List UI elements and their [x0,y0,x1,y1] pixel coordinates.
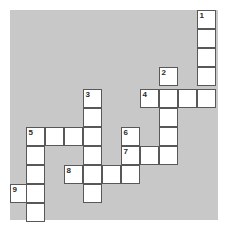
crossword-cell[interactable] [64,127,83,146]
cell-number-label: 5 [29,128,33,137]
crossword-cell-numbered[interactable]: 7 [121,146,140,165]
crossword-cell[interactable] [26,203,45,222]
cell-number-label: 2 [162,68,166,77]
crossword-cell[interactable] [102,165,121,184]
crossword-cell[interactable] [159,89,178,108]
crossword-cell-numbered[interactable]: 4 [140,89,159,108]
crossword-cell[interactable] [26,146,45,165]
crossword-cell[interactable] [45,127,64,146]
crossword-cell[interactable] [121,165,140,184]
cell-number-label: 9 [13,185,17,194]
crossword-cell-numbered[interactable]: 2 [159,67,178,86]
crossword-cell[interactable] [159,108,178,127]
crossword-cell-numbered[interactable]: 5 [26,127,45,146]
crossword-cell[interactable] [178,89,197,108]
cell-number-label: 7 [124,147,128,156]
crossword-cell-numbered[interactable]: 6 [121,127,140,146]
crossword-cell[interactable] [83,165,102,184]
crossword-cell[interactable] [197,89,216,108]
crossword-cell[interactable] [83,146,102,165]
crossword-cell[interactable] [159,127,178,146]
crossword-cell-numbered[interactable]: 1 [197,10,216,29]
cell-number-label: 3 [86,90,90,99]
crossword-cell[interactable] [197,67,216,86]
cell-number-label: 6 [124,128,128,137]
cell-number-label: 1 [200,11,204,20]
crossword-cell[interactable] [83,127,102,146]
crossword-cell[interactable] [197,48,216,67]
crossword-cell[interactable] [140,146,159,165]
crossword-cell[interactable] [26,184,45,203]
crossword-cell[interactable] [83,108,102,127]
crossword-cell[interactable] [26,165,45,184]
crossword-puzzle: 123456789 [0,0,228,232]
crossword-cell-numbered[interactable]: 3 [83,89,102,108]
cell-number-label: 8 [67,166,71,175]
cell-number-label: 4 [143,90,147,99]
crossword-cell[interactable] [159,146,178,165]
crossword-cell[interactable] [197,29,216,48]
crossword-cell[interactable] [83,184,102,203]
crossword-cell-numbered[interactable]: 8 [64,165,83,184]
